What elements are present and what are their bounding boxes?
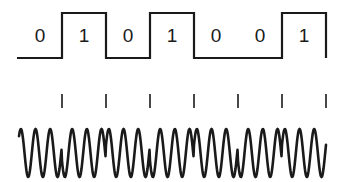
psk-diagram: 0101001 [0, 0, 349, 182]
bit-label: 0 [255, 25, 266, 46]
bit-label: 0 [211, 25, 222, 46]
bit-label: 0 [123, 25, 134, 46]
bit-label: 1 [299, 25, 310, 46]
bit-labels: 0101001 [35, 25, 310, 46]
bit-label: 1 [79, 25, 90, 46]
bit-label: 1 [167, 25, 178, 46]
bit-label: 0 [35, 25, 46, 46]
modulated-carrier-waveform [19, 129, 326, 177]
bit-boundary-ticks [62, 94, 326, 108]
